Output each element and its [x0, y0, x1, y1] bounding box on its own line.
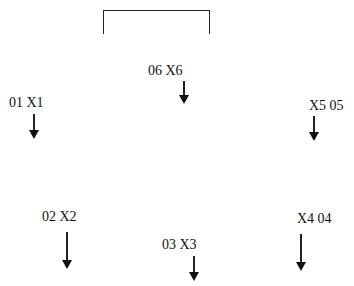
down-arrow-icon [309, 116, 319, 141]
node-label-01: 01 X1 [9, 96, 44, 110]
down-arrow-icon [179, 81, 189, 104]
node-label-03: 03 X3 [162, 238, 197, 252]
node-label-06: 06 X6 [148, 64, 183, 78]
node-label-04: X4 04 [297, 212, 332, 226]
down-arrow-icon [29, 114, 39, 139]
node-label-05: X5 05 [309, 99, 344, 113]
node-label-02: 02 X2 [42, 210, 77, 224]
down-arrow-icon [189, 256, 199, 281]
down-arrow-icon [296, 234, 306, 271]
down-arrow-icon [62, 232, 72, 269]
top-bracket [103, 10, 210, 34]
